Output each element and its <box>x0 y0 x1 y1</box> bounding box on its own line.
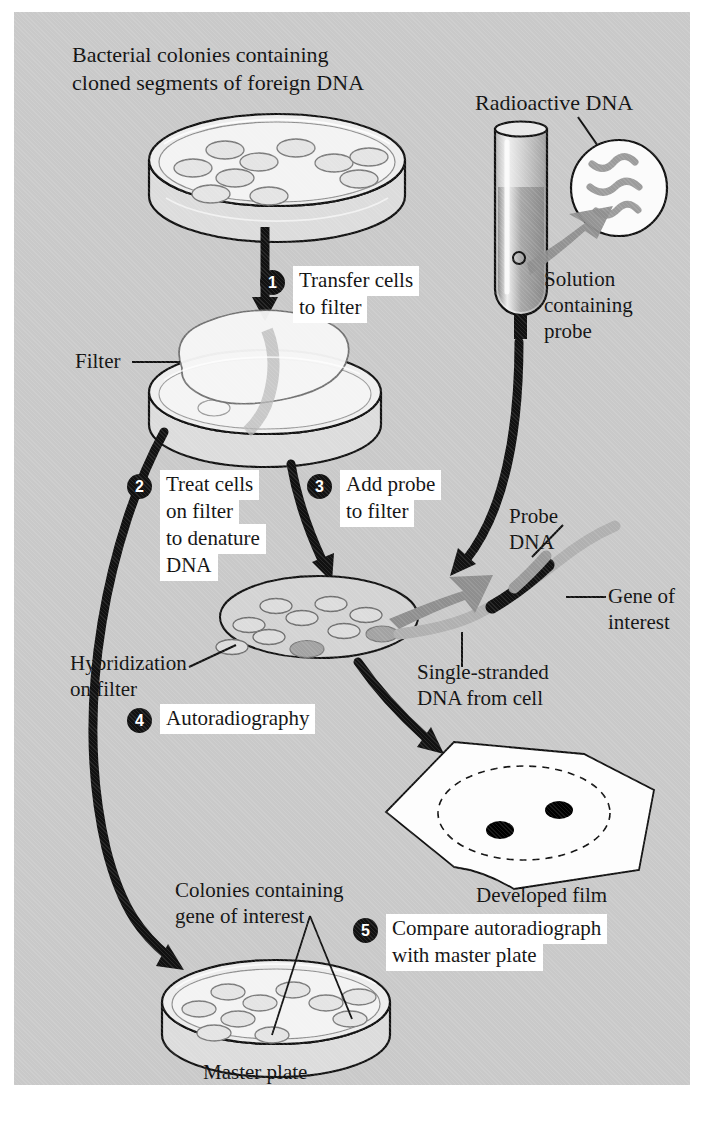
master-plate-label: Master plate <box>203 1060 307 1085</box>
step-3-label-line-1: Add probe <box>340 470 441 500</box>
radioactive-dna-label: Radioactive DNA <box>475 90 633 116</box>
step-3-badge: 3 <box>307 474 332 499</box>
master-plate-dish <box>162 916 390 1077</box>
filter-petri-dish <box>132 310 381 467</box>
step-5-label-line-1: Compare autoradiograph <box>386 914 607 944</box>
gene-of-interest-label-line-2: interest <box>608 610 670 635</box>
top-caption-line-2: cloned segments of foreign DNA <box>72 70 364 96</box>
step-4-label: Autoradiography <box>160 704 315 734</box>
figure-panel: Bacterial colonies containing cloned seg… <box>14 12 690 1085</box>
colonies-gene-label-line-2: gene of interest <box>175 904 304 929</box>
step-2-badge: 2 <box>127 474 152 499</box>
top-caption-line-1: Bacterial colonies containing <box>72 42 329 68</box>
hybridization-label-line-2: on filter <box>70 677 137 702</box>
probe-dna-label-line-2: DNA <box>509 530 555 555</box>
step-2-label-line-3: to denature <box>160 524 266 554</box>
gene-of-interest-label-line-1: Gene of <box>608 584 675 609</box>
solution-label-line-1: Solution <box>544 267 615 292</box>
step-5-label-line-2: with master plate <box>386 941 543 971</box>
probe-dna-label-line-1: Probe <box>509 504 558 529</box>
step-2-label-line-1: Treat cells <box>160 470 259 500</box>
hybridization-filter-disc <box>189 576 418 667</box>
step-1-label-line-1: Transfer cells <box>293 266 419 296</box>
step-3-label-line-2: to filter <box>340 497 414 527</box>
test-tube <box>495 122 547 340</box>
single-stranded-dna-label-line-1: Single-stranded <box>417 660 549 685</box>
step-5-badge: 5 <box>353 918 378 943</box>
step-4-badge: 4 <box>127 708 152 733</box>
step-2-label-line-4: DNA <box>160 551 218 581</box>
step-2-label-line-2: on filter <box>160 497 239 527</box>
developed-film-label: Developed film <box>476 883 607 908</box>
hybridization-label-line-1: Hybridization <box>70 651 187 676</box>
developed-film <box>386 742 654 889</box>
probe-dna-strand <box>389 525 615 667</box>
step-1-label-line-2: to filter <box>293 293 367 323</box>
colonies-gene-label-line-1: Colonies containing <box>175 878 344 903</box>
solution-label-line-3: probe <box>544 319 592 344</box>
step-1-badge: 1 <box>260 270 285 295</box>
top-petri-dish <box>149 114 405 242</box>
single-stranded-dna-label-line-2: DNA from cell <box>417 686 543 711</box>
filter-label: Filter <box>75 349 121 374</box>
solution-label-line-2: containing <box>544 293 633 318</box>
